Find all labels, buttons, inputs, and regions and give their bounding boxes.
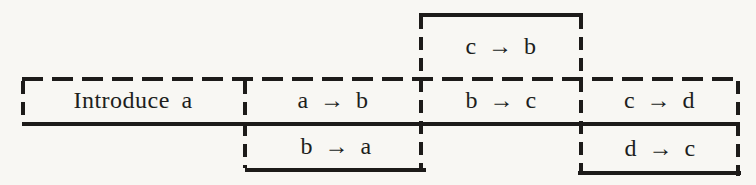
line-bottom-of-d-to-c-box	[578, 171, 741, 175]
rule-overlap-diagram: Introduce a a → b b → a c → b b → c c → …	[0, 0, 756, 185]
cell-d-to-c: d → c	[581, 126, 739, 171]
cell-introduce-a: Introduce a	[22, 79, 244, 122]
cell-c-to-d: c → d	[581, 79, 738, 122]
cell-b-to-a: b → a	[246, 124, 426, 168]
cell-a-to-b: a → b	[246, 79, 420, 122]
cell-b-to-c: b → c	[421, 79, 581, 122]
cell-c-to-b: c → b	[421, 15, 581, 77]
line-bottom-of-b-to-a-box	[245, 168, 426, 172]
